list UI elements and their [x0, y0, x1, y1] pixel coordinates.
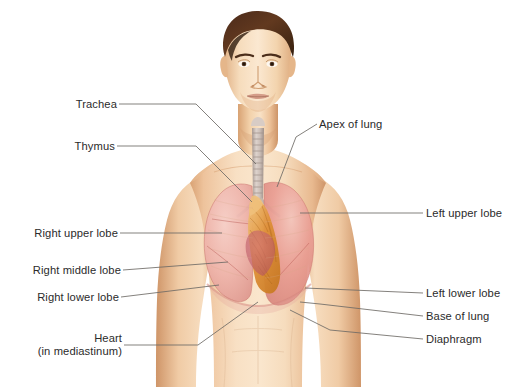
- label-trachea-text: Trachea: [76, 98, 117, 110]
- pupil-left: [243, 63, 245, 65]
- label-right-upper-lobe: Right upper lobe: [0, 227, 118, 240]
- label-trachea: Trachea: [0, 98, 117, 111]
- label-heart-text: Heart: [94, 332, 122, 344]
- label-diaphragm-text: Diaphragm: [426, 333, 482, 345]
- nostril-right: [262, 85, 265, 87]
- label-heart-subtext: (in mediastinum): [0, 345, 122, 358]
- pupil-right: [271, 63, 273, 65]
- anatomy-figure: Trachea Thymus Right upper lobe Right mi…: [0, 0, 516, 387]
- label-thymus-text: Thymus: [75, 140, 115, 152]
- label-apex-of-lung-text: Apex of lung: [319, 118, 382, 130]
- label-diaphragm: Diaphragm: [426, 333, 482, 346]
- label-right-lower-lobe-text: Right lower lobe: [37, 291, 119, 303]
- label-left-upper-lobe-text: Left upper lobe: [426, 207, 502, 219]
- label-heart: Heart (in mediastinum): [0, 332, 122, 357]
- label-right-middle-lobe-text: Right middle lobe: [33, 264, 121, 276]
- label-left-lower-lobe: Left lower lobe: [426, 287, 500, 300]
- label-right-lower-lobe: Right lower lobe: [0, 291, 119, 304]
- label-right-upper-lobe-text: Right upper lobe: [34, 227, 118, 239]
- nostril-left: [252, 85, 255, 87]
- label-thymus: Thymus: [0, 140, 115, 153]
- thorax-illustration: [0, 0, 516, 387]
- label-right-middle-lobe: Right middle lobe: [0, 264, 121, 277]
- label-left-lower-lobe-text: Left lower lobe: [426, 287, 500, 299]
- label-left-upper-lobe: Left upper lobe: [426, 207, 502, 220]
- label-base-of-lung-text: Base of lung: [426, 310, 489, 322]
- label-base-of-lung: Base of lung: [426, 310, 489, 323]
- internal-anatomy: [204, 117, 313, 314]
- label-apex-of-lung: Apex of lung: [319, 118, 382, 131]
